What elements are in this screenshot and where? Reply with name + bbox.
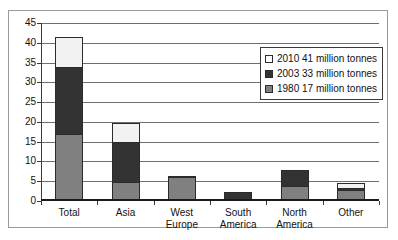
x-axis-tick-mark	[379, 201, 380, 205]
bar-segment	[55, 134, 83, 201]
gridline	[41, 23, 379, 24]
bar-segment	[168, 177, 196, 201]
x-axis-tick-mark	[210, 201, 211, 205]
bar-stack	[168, 176, 196, 201]
chart-frame: 051015202530354045 TotalAsiaWest EuropeS…	[8, 10, 388, 228]
legend-item: 1980 17 million tonnes	[265, 81, 377, 96]
y-axis-tick-label: 45	[25, 18, 36, 28]
gridline	[41, 122, 379, 123]
legend-swatch	[265, 85, 273, 93]
x-axis-tick-mark	[97, 201, 98, 205]
x-axis-tick-label: Asia	[116, 207, 135, 219]
y-axis-tick-label: 15	[25, 137, 36, 147]
legend-swatch	[265, 55, 273, 63]
y-axis-tick-label: 25	[25, 97, 36, 107]
gridline	[41, 102, 379, 103]
x-axis-tick-label: West Europe	[166, 207, 198, 230]
bar-segment	[55, 37, 83, 67]
y-axis-tick-label: 40	[25, 38, 36, 48]
y-axis-tick-label: 30	[25, 77, 36, 87]
bar-segment	[112, 142, 140, 182]
chart-legend: 2010 41 million tonnes2003 33 million to…	[260, 47, 383, 100]
x-axis-tick-label: North America	[276, 207, 313, 230]
gridline	[41, 161, 379, 162]
x-axis-tick-mark	[154, 201, 155, 205]
bar-segment	[112, 123, 140, 143]
legend-swatch	[265, 70, 273, 78]
bar-stack	[112, 123, 140, 201]
bar-segment	[281, 170, 309, 186]
y-axis-line	[41, 23, 42, 201]
gridline	[41, 142, 379, 143]
y-axis-tick-label: 35	[25, 58, 36, 68]
y-axis-tick-label: 5	[30, 176, 36, 186]
y-axis-tick-label: 10	[25, 156, 36, 166]
y-axis-tick-label: 20	[25, 117, 36, 127]
x-axis-tick-mark	[41, 201, 42, 205]
bar-segment	[55, 67, 83, 134]
x-axis-tick-mark	[266, 201, 267, 205]
legend-label: 1980 17 million tonnes	[277, 84, 377, 94]
gridline	[41, 181, 379, 182]
x-axis-tick-label: South America	[220, 207, 257, 230]
gridline	[41, 43, 379, 44]
bar-stack	[281, 170, 309, 201]
legend-label: 2003 33 million tonnes	[277, 69, 377, 79]
bar-stack	[55, 37, 83, 201]
legend-item: 2010 41 million tonnes	[265, 51, 377, 66]
legend-item: 2003 33 million tonnes	[265, 66, 377, 81]
y-axis-tick-label: 0	[30, 196, 36, 206]
legend-label: 2010 41 million tonnes	[277, 54, 377, 64]
x-axis-tick-label: Other	[338, 207, 363, 219]
x-axis-tick-label: Total	[59, 207, 80, 219]
x-axis-tick-mark	[323, 201, 324, 205]
